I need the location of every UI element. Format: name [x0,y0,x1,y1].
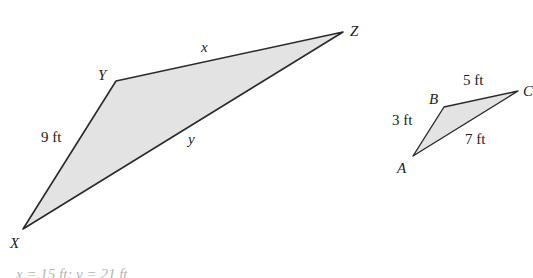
side-ab-label: 3 ft [392,113,412,128]
triangles-drawing [0,0,533,278]
vertex-b-label: B [429,92,438,107]
answer-text: x = 15 ft; y = 21 ft [16,266,127,278]
vertex-c-label: C [523,84,533,99]
vertex-y-label: Y [98,68,106,83]
side-ac-label: 7 ft [465,132,485,147]
side-bc-label: 5 ft [463,73,483,88]
vertex-z-label: Z [350,24,358,39]
side-xz-label: y [188,132,195,147]
similar-triangles-diagram: X Y Z 9 ft x y A B C 3 ft 5 ft 7 ft x = … [0,0,533,278]
vertex-a-label: A [397,161,406,176]
side-xy-label: 9 ft [41,130,61,145]
vertex-x-label: X [10,236,19,251]
side-yz-label: x [201,40,208,55]
triangle-xyz [23,32,343,229]
